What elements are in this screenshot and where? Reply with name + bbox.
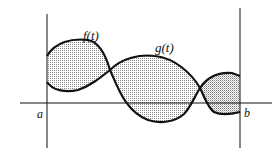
a-label: a: [37, 108, 43, 120]
f-label: f(t): [83, 29, 99, 42]
b-label: b: [244, 107, 250, 119]
area-between-curves-diagram: [0, 0, 278, 152]
g-label: g(t): [155, 41, 174, 54]
